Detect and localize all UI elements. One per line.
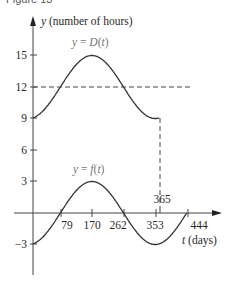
x-tick-170: 170 <box>83 219 101 231</box>
x-tick-262: 262 <box>109 219 127 231</box>
x-axis-arrow-icon <box>212 210 222 216</box>
y-tick-neg3: −3 <box>15 238 27 250</box>
x-tick-444: 444 <box>190 219 208 231</box>
d-curve-label: y = D(t) <box>71 36 109 49</box>
y-tick-6: 6 <box>21 144 27 156</box>
f-curve-label: y = f(t) <box>72 163 105 176</box>
y-tick-3: 3 <box>21 175 27 187</box>
x-tick-353: 353 <box>146 219 164 231</box>
chart: 15 12 9 6 3 −3 79 170 262 353 444 365 y … <box>0 0 229 284</box>
y-tick-15: 15 <box>16 49 28 61</box>
y-axis-label: y (number of hours) <box>40 15 133 28</box>
x-axis-label: t (days) <box>182 234 217 247</box>
x-tick-79: 79 <box>61 219 73 231</box>
y-axis-arrow-icon <box>30 16 36 26</box>
x-tick-365: 365 <box>153 193 171 205</box>
y-tick-9: 9 <box>21 112 27 124</box>
y-tick-12: 12 <box>16 81 28 93</box>
